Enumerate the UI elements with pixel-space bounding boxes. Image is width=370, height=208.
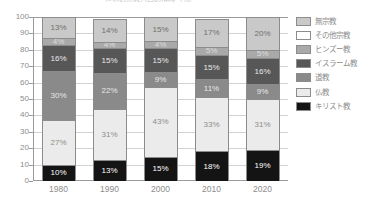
bar-segment-label: 9%	[155, 76, 167, 84]
legend-label: その他宗教	[315, 31, 350, 40]
y-tick-mark	[29, 181, 33, 182]
bar-stack: 10%27%30%16%4%13%	[42, 17, 76, 181]
chart-legend: 無宗教その他宗教ヒンズー教イスラーム教道教仏教キリスト教	[296, 14, 368, 113]
bar-segment-label: 15%	[152, 165, 168, 173]
legend-item[interactable]: 無宗教	[296, 14, 368, 28]
bar-segment-label: 9%	[257, 88, 269, 96]
bar-segment-label: 22%	[101, 87, 117, 95]
y-tick-label: 70	[0, 62, 29, 70]
bar-segment-label: 31%	[254, 121, 270, 129]
legend-label: ヒンズー教	[315, 45, 350, 54]
bar-segment[interactable]: 4%	[144, 41, 178, 47]
bar-segment-label: 19%	[254, 162, 270, 170]
legend-item[interactable]: キリスト教	[296, 99, 368, 113]
y-tick-label: 100	[0, 13, 29, 21]
bar-segment[interactable]: 31%	[246, 99, 280, 150]
bar-segment[interactable]: 15%	[144, 17, 178, 41]
x-tick-label: 2000	[135, 184, 186, 194]
y-tick-label: 90	[0, 29, 29, 37]
bar-segment[interactable]: 5%	[246, 50, 280, 58]
bar-segment-label: 33%	[203, 121, 219, 129]
bars-layer: 10%27%30%16%4%13%13%31%22%15%4%14%15%43%…	[33, 17, 288, 181]
bar-segment[interactable]: 5%	[195, 47, 229, 55]
bar-segment[interactable]: 16%	[42, 45, 76, 71]
legend-swatch	[296, 102, 311, 111]
bar-segment-label: 5%	[206, 47, 218, 55]
bar-segment[interactable]: 43%	[144, 87, 178, 157]
bar-segment[interactable]: 16%	[246, 58, 280, 84]
bar-segment-label: 13%	[101, 167, 117, 175]
bar-segment-label: 5%	[257, 50, 269, 58]
bar-segment[interactable]: 15%	[195, 55, 229, 80]
bar-segment[interactable]: 9%	[246, 84, 280, 99]
legend-label: キリスト教	[315, 102, 350, 111]
legend-item[interactable]: イスラーム教	[296, 57, 368, 71]
x-axis: 19801990200020102020	[33, 184, 288, 194]
bar-group[interactable]: 13%31%22%15%4%14%	[84, 17, 135, 181]
y-tick-label: 50	[0, 95, 29, 103]
bar-segment[interactable]: 13%	[42, 17, 76, 38]
bar-segment[interactable]: 27%	[42, 120, 76, 164]
y-tick-label: 80	[0, 46, 29, 54]
bar-stack: 18%33%11%15%5%17%	[195, 17, 229, 181]
y-tick-label: 10	[0, 161, 29, 169]
bar-group[interactable]: 10%27%30%16%4%13%	[33, 17, 84, 181]
bar-segment[interactable]: 15%	[144, 157, 178, 181]
stacked-bar-chart: 世界の宗教人口の推移（％） 0102030405060708090100 10%…	[0, 0, 370, 208]
bar-segment-label: 15%	[152, 57, 168, 65]
bar-segment[interactable]: 13%	[93, 160, 127, 181]
bar-segment[interactable]: 10%	[42, 165, 76, 181]
legend-item[interactable]: 仏教	[296, 85, 368, 99]
bar-stack: 15%43%9%15%4%15%	[144, 17, 178, 181]
bar-segment[interactable]: 4%	[42, 38, 76, 45]
bar-segment[interactable]: 30%	[42, 71, 76, 120]
bar-segment[interactable]: 17%	[195, 19, 229, 47]
bar-segment[interactable]: 11%	[195, 79, 229, 97]
x-tick-label: 1980	[33, 184, 84, 194]
legend-label: イスラーム教	[315, 59, 357, 68]
bar-segment[interactable]: 22%	[93, 73, 127, 109]
legend-swatch	[296, 45, 311, 54]
bar-segment-label: 10%	[50, 169, 66, 177]
legend-item[interactable]: その他宗教	[296, 28, 368, 42]
bar-segment[interactable]: 15%	[144, 48, 178, 72]
bar-segment-label: 14%	[101, 27, 117, 35]
bar-segment[interactable]: 33%	[195, 97, 229, 151]
bar-segment-label: 15%	[203, 64, 219, 72]
legend-swatch	[296, 59, 311, 68]
bar-segment-label: 17%	[203, 29, 219, 37]
legend-swatch	[296, 31, 311, 40]
y-tick-label: 60	[0, 79, 29, 87]
bar-group[interactable]: 19%31%9%16%5%20%	[237, 17, 288, 181]
bar-segment-label: 31%	[101, 131, 117, 139]
bar-segment-label: 15%	[152, 26, 168, 34]
bar-segment[interactable]: 19%	[246, 150, 280, 181]
bar-segment[interactable]: 18%	[195, 151, 229, 181]
bar-segment-label: 20%	[254, 30, 270, 38]
legend-item[interactable]: 道教	[296, 71, 368, 85]
legend-item[interactable]: ヒンズー教	[296, 42, 368, 56]
y-axis: 0102030405060708090100	[0, 17, 29, 181]
y-tick-label: 30	[0, 128, 29, 136]
bar-segment[interactable]: 4%	[93, 42, 127, 49]
bar-segment-label: 18%	[203, 163, 219, 171]
y-tick-label: 20	[0, 144, 29, 152]
x-tick-label: 2010	[186, 184, 237, 194]
bar-segment-label: 15%	[101, 57, 117, 65]
bar-group[interactable]: 18%33%11%15%5%17%	[186, 17, 237, 181]
bar-segment[interactable]: 14%	[93, 19, 127, 42]
bar-segment[interactable]: 15%	[93, 48, 127, 73]
bar-segment-label: 30%	[50, 92, 66, 100]
y-tick-label: 40	[0, 111, 29, 119]
legend-label: 仏教	[315, 88, 329, 97]
bar-segment[interactable]: 20%	[246, 17, 280, 50]
y-tick-label: 0	[0, 177, 29, 185]
bar-segment-label: 4%	[155, 41, 167, 47]
bar-segment-label: 13%	[50, 24, 66, 32]
chart-title: 世界の宗教人口の推移（％）	[0, 0, 300, 2]
legend-label: 無宗教	[315, 17, 336, 26]
bar-segment-label: 43%	[152, 118, 168, 126]
bar-group[interactable]: 15%43%9%15%4%15%	[135, 17, 186, 181]
bar-segment[interactable]: 9%	[144, 72, 178, 87]
bar-segment[interactable]: 31%	[93, 109, 127, 160]
